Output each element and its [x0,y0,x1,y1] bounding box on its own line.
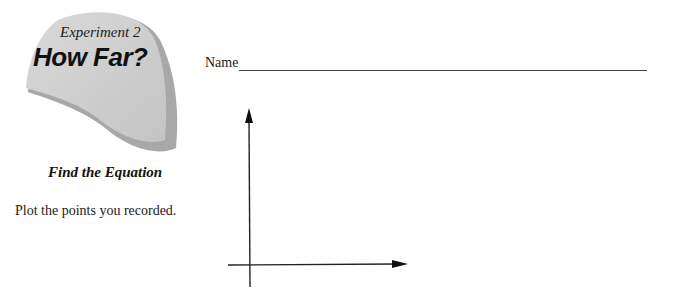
x-axis [228,264,396,265]
name-field: Name [205,55,647,71]
name-input-line[interactable] [239,57,647,71]
graph-axes [220,70,420,300]
name-label: Name [205,55,238,71]
x-axis-arrow-icon [392,260,408,268]
y-axis [249,120,250,287]
page-title: How Far? [33,42,147,73]
experiment-label: Experiment 2 [60,24,140,41]
instruction-text: Plot the points you recorded. [15,203,176,219]
y-axis-arrow-icon [245,108,253,123]
section-subtitle: Find the Equation [48,164,162,181]
